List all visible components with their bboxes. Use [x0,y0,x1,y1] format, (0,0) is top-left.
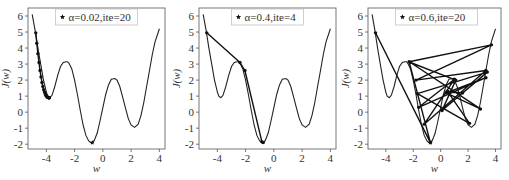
iterate-marker [416,92,419,95]
y-tick-label: -2 [14,138,23,150]
y-tick-label: 2 [189,74,195,86]
iterate-marker [444,90,447,93]
legend-label: α=0.02,ite=20 [69,11,132,23]
x-tick-label: 2 [465,152,471,164]
plot-frame [28,8,165,149]
objective-curve [203,14,330,142]
iterate-marker [486,70,489,73]
iterate-marker [454,78,457,81]
iterate-marker [238,61,241,64]
y-tick-label: 3 [358,58,364,70]
y-tick-label: 6 [358,10,364,22]
iterate-marker [374,31,377,34]
y-tick-label: 0 [18,106,24,118]
iterate-marker [262,141,265,144]
iterate-marker [39,75,42,78]
descent-path [376,33,492,143]
x-axis-label: w [431,162,439,174]
x-tick-label: 4 [328,152,334,164]
x-tick-label: 4 [157,152,163,164]
x-tick-label: 2 [299,152,305,164]
x-tick-label: 0 [100,152,106,164]
y-axis-label: J(w) [0,68,12,88]
y-tick-label: 3 [189,58,195,70]
iterate-marker [417,106,420,109]
panel-alpha-0-02: -2-10123456-4-2024wJ(w)α=0.02,ite=20 [0,8,165,174]
iterate-marker [41,85,44,88]
iterate-marker [484,76,487,79]
x-tick-label: -2 [409,152,418,164]
y-tick-label: 4 [358,42,364,54]
x-tick-label: -2 [241,152,250,164]
iterate-marker [36,52,39,55]
y-tick-label: 2 [18,74,24,86]
y-tick-label: 0 [358,106,364,118]
y-tick-label: 5 [189,26,195,38]
iterate-marker [440,109,443,112]
panel-alpha-0-6: -2-10123456-4-2024wJ(w)α=0.6,ite=20 [339,8,501,174]
iterate-marker [479,107,482,110]
iterate-marker [38,69,41,72]
iterate-marker [243,69,246,72]
iterate-marker [461,91,464,94]
iterate-marker [409,61,412,64]
y-tick-label: 1 [18,90,24,102]
y-tick-label: 6 [189,10,195,22]
y-tick-label: 4 [18,42,24,54]
x-tick-label: -2 [70,152,79,164]
x-tick-label: 0 [271,152,277,164]
x-axis-label: w [93,162,101,174]
iterate-marker [423,122,426,125]
iterate-marker [205,31,208,34]
x-tick-label: 0 [438,152,444,164]
legend-label: α=0.6,ite=20 [409,11,466,23]
y-tick-label: 5 [358,26,364,38]
y-tick-label: 2 [358,74,364,86]
objective-curve [32,14,159,142]
iterate-marker [34,31,37,34]
x-tick-label: -4 [42,152,52,164]
iterate-marker [40,81,43,84]
y-axis-label: J(w) [339,68,352,88]
x-axis-label: w [264,162,272,174]
iterate-marker [490,43,493,46]
y-tick-label: -1 [354,122,363,134]
y-tick-label: -1 [185,122,194,134]
y-tick-label: 4 [189,42,195,54]
y-tick-label: 5 [18,26,24,38]
iterate-marker [48,96,51,99]
figure: -2-10123456-4-2024wJ(w)α=0.02,ite=20 -2-… [0,0,509,180]
plot-frame [199,8,336,149]
y-tick-label: 1 [358,90,364,102]
x-tick-label: -4 [381,152,391,164]
iterate-marker [35,42,38,45]
y-tick-label: 3 [18,58,24,70]
y-tick-label: -2 [185,138,194,150]
y-tick-label: -2 [354,138,363,150]
panel-alpha-0-4: -2-10123456-4-2024wJ(w)α=0.4,ite=4 [170,8,336,174]
gradient-descent-figure: -2-10123456-4-2024wJ(w)α=0.02,ite=20 -2-… [0,0,509,180]
y-axis-label: J(w) [170,68,183,88]
x-tick-label: -4 [213,152,223,164]
x-tick-label: 4 [493,152,499,164]
iterate-marker [468,122,471,125]
iterate-marker [37,61,40,64]
x-tick-label: 2 [128,152,134,164]
y-tick-label: 0 [189,106,195,118]
y-tick-label: -1 [14,122,23,134]
iterate-marker [414,78,417,81]
y-tick-label: 6 [18,10,24,22]
legend-label: α=0.4,ite=4 [245,11,297,23]
y-tick-label: 1 [189,90,195,102]
